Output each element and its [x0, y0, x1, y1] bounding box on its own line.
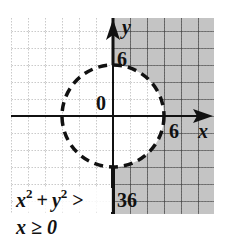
inequality-1-rhs: 36 — [117, 189, 137, 211]
origin-label: 0 — [96, 92, 106, 114]
inequality-2: x ≥ 0 — [15, 216, 57, 238]
x-axis-label: x — [197, 120, 208, 142]
y-tick-label: 6 — [117, 48, 127, 70]
inequality-graph: y 6 0 6 x x2+y2> 36 x ≥ 0 — [0, 0, 226, 246]
y-axis-label: y — [120, 16, 131, 39]
x-tick-label: 6 — [169, 120, 179, 142]
